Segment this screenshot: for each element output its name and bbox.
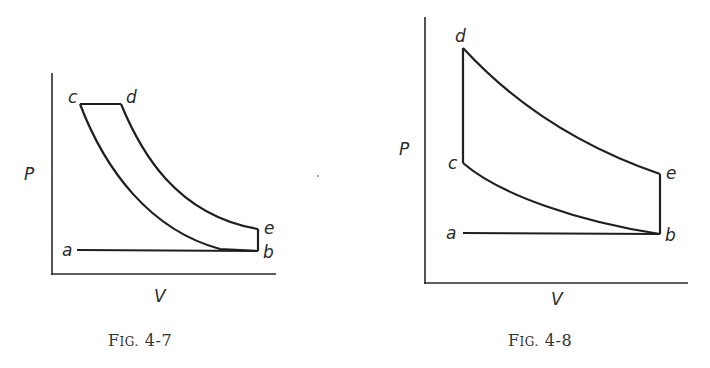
caption-prefix: F [108,331,120,350]
figure-caption: FIG.4-7 [108,331,172,350]
y-axis-label: P [399,139,410,159]
point-label-e: e [666,163,676,183]
point-label-c: c [68,87,78,107]
point-label-c: c [448,153,458,173]
point-label-a: a [62,240,72,260]
point-label-b: b [263,242,274,262]
curve-d-e [463,48,660,174]
caption-smallcaps: IG. [120,335,139,349]
caption-smallcaps: IG. [520,335,539,349]
figure-4-8: d c e a b P V FIG.4-8 [399,17,688,350]
curve-c-b [80,104,258,251]
point-label-d: d [455,26,466,46]
y-axis-label: P [24,164,35,184]
figures-canvas: c d e b a P V FIG.4-7 d c e a b P V FIG.… [0,0,710,368]
point-label-d: d [126,87,137,107]
curve-d-e [121,104,258,229]
line-a-b [463,233,660,234]
caption-prefix: F [508,331,520,350]
x-axis-label: V [154,286,167,306]
caption-number: 4-7 [145,331,172,350]
point-label-b: b [665,225,676,245]
figure-caption: FIG.4-8 [508,331,572,350]
point-label-a: a [446,223,456,243]
curve-c-b [463,163,660,234]
scan-speck [317,175,319,177]
x-axis-label: V [551,289,564,309]
figure-4-7: c d e b a P V FIG.4-7 [24,73,276,350]
caption-number: 4-8 [545,331,572,350]
point-label-e: e [264,218,274,238]
